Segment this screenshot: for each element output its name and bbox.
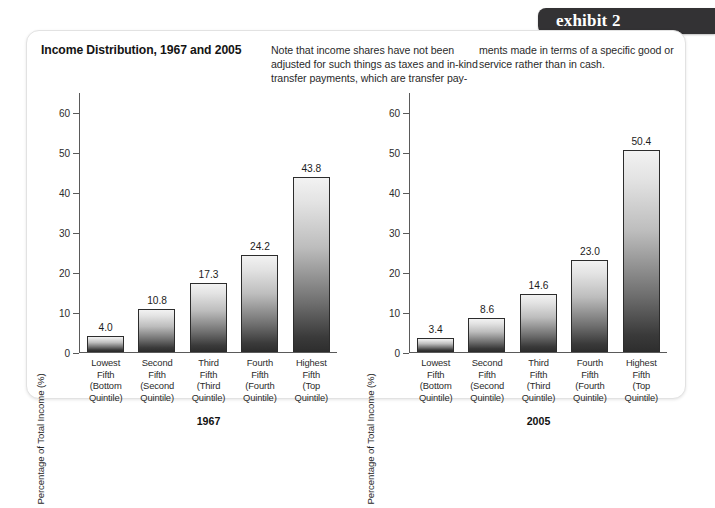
y-axis-tick-label: 20	[389, 268, 400, 279]
bar	[623, 150, 660, 352]
bar-slot: 50.4	[616, 93, 667, 352]
category-label: HighestFifth(TopQuintile)	[286, 357, 337, 403]
chart-year-label-2005: 2005	[410, 415, 667, 427]
y-axis-tick-label: 50	[59, 148, 70, 159]
bar-slot: 14.6	[513, 93, 564, 352]
bar-value-label: 8.6	[461, 304, 512, 315]
charts-area: Percentage of Total Income (%) 010203040…	[27, 93, 687, 393]
y-axis-tick-mark	[73, 313, 79, 314]
y-axis-title: Percentage of Total Income (%)	[365, 339, 379, 508]
bar-value-label: 43.8	[286, 163, 337, 174]
chart-panel-2005: Percentage of Total Income (%) 010203040…	[357, 93, 687, 393]
y-axis-tick-mark	[403, 273, 409, 274]
y-axis-tick-mark	[73, 353, 79, 354]
category-label: FourthFifth(FourthQuintile)	[564, 357, 615, 403]
y-axis-tick-label: 50	[389, 148, 400, 159]
bar-slot: 43.8	[286, 93, 337, 352]
y-axis-tick-mark	[403, 233, 409, 234]
y-axis-tick-label: 20	[59, 268, 70, 279]
category-label: ThirdFifth(ThirdQuintile)	[183, 357, 234, 403]
x-axis-line	[409, 352, 667, 353]
x-axis-line	[79, 352, 337, 353]
category-labels-1967: LowestFifth(BottomQuintile)SecondFifth(S…	[80, 357, 337, 413]
bar-value-label: 24.2	[234, 241, 285, 252]
category-label: HighestFifth(TopQuintile)	[616, 357, 667, 403]
bar	[87, 336, 124, 352]
bar-slot: 17.3	[183, 93, 234, 352]
y-axis-tick-mark	[403, 193, 409, 194]
bar-value-label: 23.0	[564, 246, 615, 257]
bar	[571, 260, 608, 352]
category-labels-2005: LowestFifth(BottomQuintile)SecondFifth(S…	[410, 357, 667, 413]
y-axis-tick-label: 40	[389, 188, 400, 199]
bar-value-label: 4.0	[80, 322, 131, 333]
note-text-column-1: Note that income shares have not been ad…	[271, 43, 479, 86]
y-axis-tick-label: 40	[59, 188, 70, 199]
bar	[293, 177, 330, 352]
bar	[520, 294, 557, 352]
bar-slot: 4.0	[80, 93, 131, 352]
y-axis-tick-label: 0	[394, 348, 400, 359]
plot-area-1967: 0102030405060 4.010.817.324.243.8	[79, 93, 337, 353]
plot-area-2005: 0102030405060 3.48.614.623.050.4	[409, 93, 667, 353]
category-label: ThirdFifth(ThirdQuintile)	[513, 357, 564, 403]
bar-slot: 3.4	[410, 93, 461, 352]
bar	[417, 338, 454, 352]
y-axis-tick-label: 30	[59, 228, 70, 239]
y-axis-tick-label: 10	[389, 308, 400, 319]
y-axis-tick-label: 60	[59, 108, 70, 119]
bar-value-label: 50.4	[616, 136, 667, 147]
y-axis-tick: 0	[79, 353, 85, 354]
category-label: SecondFifth(SecondQuintile)	[461, 357, 512, 403]
category-label: FourthFifth(FourthQuintile)	[234, 357, 285, 403]
y-axis-tick-mark	[73, 193, 79, 194]
y-axis-tick-label: 60	[389, 108, 400, 119]
y-axis-tick-mark	[73, 113, 79, 114]
page-title: Income Distribution, 1967 and 2005	[41, 43, 271, 58]
bar	[138, 309, 175, 352]
bar-group-1967: 4.010.817.324.243.8	[80, 93, 337, 352]
y-axis-tick-mark	[403, 313, 409, 314]
chart-year-label-1967: 1967	[80, 415, 337, 427]
y-axis-tick-label: 30	[389, 228, 400, 239]
y-axis-tick-label: 0	[64, 348, 70, 359]
category-label: SecondFifth(SecondQuintile)	[131, 357, 182, 403]
card-header: Income Distribution, 1967 and 2005 Note …	[41, 43, 675, 86]
bar-value-label: 10.8	[131, 295, 182, 306]
y-axis-tick: 0	[409, 353, 415, 354]
note-text-column-2: ments made in terms of a specific good o…	[479, 43, 675, 71]
y-axis-tick-mark	[403, 353, 409, 354]
bar-slot: 23.0	[564, 93, 615, 352]
y-axis-tick-mark	[73, 233, 79, 234]
y-axis-title: Percentage of Total Income (%)	[35, 339, 49, 508]
y-axis-tick-mark	[73, 273, 79, 274]
bar	[468, 318, 505, 352]
bar-group-2005: 3.48.614.623.050.4	[410, 93, 667, 352]
bar	[190, 283, 227, 352]
y-axis-tick-mark	[73, 153, 79, 154]
bar	[241, 255, 278, 352]
y-axis-tick-label: 10	[59, 308, 70, 319]
bar-value-label: 14.6	[513, 280, 564, 291]
y-axis-tick-mark	[403, 113, 409, 114]
category-label: LowestFifth(BottomQuintile)	[410, 357, 461, 403]
exhibit-number-label: exhibit 2	[556, 11, 621, 31]
y-axis-tick-mark	[403, 153, 409, 154]
bar-value-label: 3.4	[410, 324, 461, 335]
bar-slot: 10.8	[131, 93, 182, 352]
category-label: LowestFifth(BottomQuintile)	[80, 357, 131, 403]
chart-panel-1967: Percentage of Total Income (%) 010203040…	[27, 93, 357, 393]
bar-slot: 24.2	[234, 93, 285, 352]
exhibit-card: Income Distribution, 1967 and 2005 Note …	[26, 30, 686, 399]
bar-value-label: 17.3	[183, 269, 234, 280]
bar-slot: 8.6	[461, 93, 512, 352]
